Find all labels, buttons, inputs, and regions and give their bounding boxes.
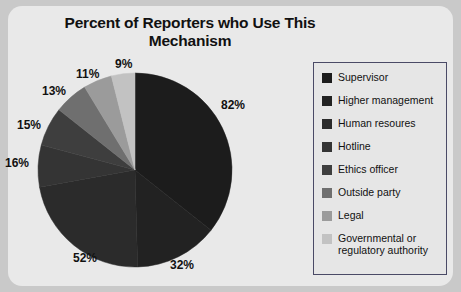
legend-item[interactable]: Higher management <box>322 94 440 110</box>
pie-value-label: 9% <box>115 57 132 71</box>
pie-value-label: 13% <box>42 84 66 98</box>
legend-item[interactable]: Legal <box>322 209 440 225</box>
legend-swatch-icon <box>322 119 332 129</box>
pie-slice-group <box>38 73 232 267</box>
pie-value-label: 32% <box>170 258 194 272</box>
legend-swatch-icon <box>322 234 332 244</box>
legend-item-label: Hotline <box>338 140 371 152</box>
legend-item[interactable]: Human resoures <box>322 117 440 133</box>
legend-item[interactable]: Ethics officer <box>322 163 440 179</box>
legend-item-label: Governmental or regulatory authority <box>338 232 440 256</box>
legend-item[interactable]: Governmental or regulatory authority <box>322 232 440 256</box>
legend-item-label: Human resoures <box>338 117 416 129</box>
legend-swatch-icon <box>322 96 332 106</box>
legend-item-label: Outside party <box>338 186 400 198</box>
pie-value-label: 82% <box>221 98 245 112</box>
pie-value-label: 52% <box>73 251 97 265</box>
pie-value-label: 11% <box>76 67 99 81</box>
legend-list: SupervisorHigher managementHuman resoure… <box>322 71 440 256</box>
legend-item[interactable]: Supervisor <box>322 71 440 87</box>
legend-item-label: Higher management <box>338 94 433 106</box>
legend-item-label: Legal <box>338 209 364 221</box>
legend-swatch-icon <box>322 165 332 175</box>
legend-item[interactable]: Hotline <box>322 140 440 156</box>
chart-legend: SupervisorHigher managementHuman resoure… <box>313 62 447 275</box>
pie-svg <box>0 0 300 292</box>
legend-item-label: Supervisor <box>338 71 388 83</box>
legend-item-label: Ethics officer <box>338 163 398 175</box>
legend-swatch-icon <box>322 142 332 152</box>
pie-value-label: 16% <box>5 156 29 170</box>
chart-page: Percent of Reporters who Use This Mechan… <box>0 0 461 292</box>
pie-chart: 82%32%52%16%15%13%11%9% <box>0 0 300 292</box>
legend-swatch-icon <box>322 188 332 198</box>
legend-item[interactable]: Outside party <box>322 186 440 202</box>
pie-value-label: 15% <box>17 118 41 132</box>
legend-swatch-icon <box>322 211 332 221</box>
legend-swatch-icon <box>322 73 332 83</box>
